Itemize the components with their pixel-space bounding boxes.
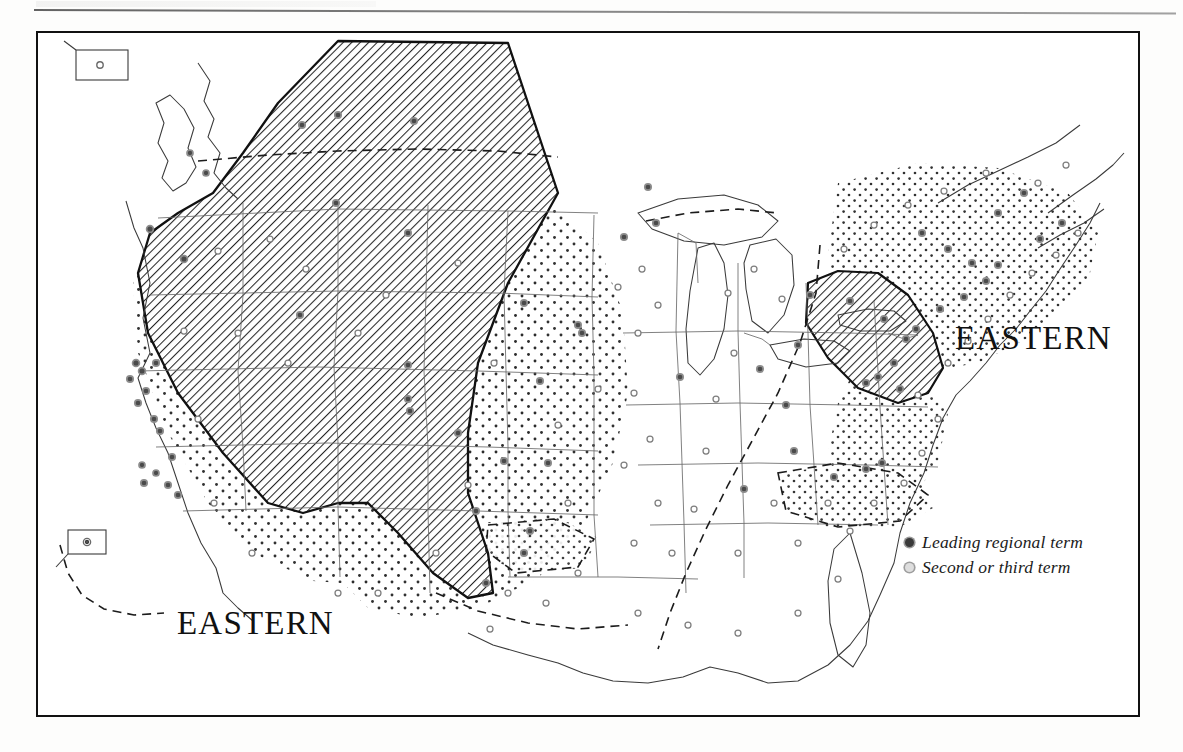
- legend-label-leading: Leading regional term: [922, 532, 1083, 553]
- map-layer-insets: [56, 41, 128, 567]
- page-root: EASTERN EASTERN Leading regional term Se…: [0, 0, 1183, 752]
- filled-dot-icon: [896, 538, 922, 547]
- region-label-eastern-northeast: EASTERN: [955, 320, 1112, 357]
- page-header-rule: [34, 9, 1176, 15]
- region-label-eastern-southwest: EASTERN: [177, 605, 334, 642]
- map-legend: Leading regional term Second or third te…: [896, 530, 1083, 580]
- alaska-inset-box: [76, 50, 128, 80]
- hollow-dot-icon: [896, 563, 922, 572]
- legend-item-leading: Leading regional term: [896, 530, 1083, 555]
- page-header-ghost-text: [36, 1, 376, 7]
- legend-item-secondary: Second or third term: [896, 555, 1083, 580]
- map-canvas: EASTERN EASTERN Leading regional term Se…: [38, 33, 1138, 715]
- legend-label-secondary: Second or third term: [922, 557, 1071, 578]
- map-plate: EASTERN EASTERN Leading regional term Se…: [36, 31, 1140, 717]
